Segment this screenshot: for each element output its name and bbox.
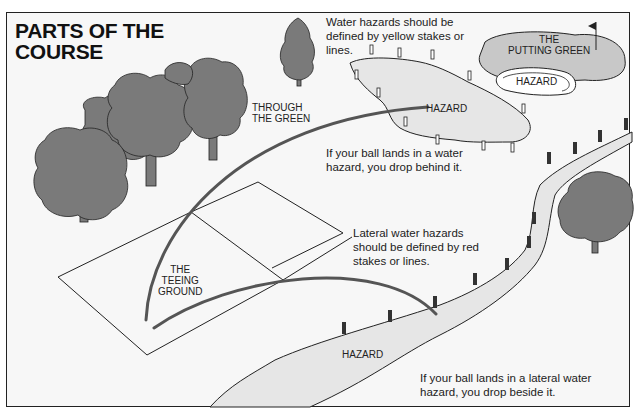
label-line: PUTTING GREEN	[508, 45, 590, 56]
note-line: If your ball lands in a lateral water	[420, 371, 591, 385]
note-line: hazard, you drop behind it.	[326, 160, 463, 174]
note-line: stakes or lines.	[353, 254, 479, 268]
page-title: PARTS OF THE COURSE	[15, 20, 164, 62]
title-line-2: COURSE	[15, 41, 164, 62]
label-putting-green: THE PUTTING GREEN	[508, 34, 590, 56]
label-bunker-hazard: HAZARD	[516, 76, 557, 87]
label-line: GROUND	[158, 286, 202, 297]
label-water-hazard: HAZARD	[426, 103, 467, 114]
note-line: lines.	[326, 43, 464, 57]
label-line: THROUGH	[252, 102, 310, 113]
title-line-1: PARTS OF THE	[15, 20, 164, 41]
note-lateral-hazard-definition: Lateral water hazards should be defined …	[353, 226, 479, 268]
note-water-hazard-definition: Water hazards should be defined by yello…	[326, 15, 464, 57]
tree-cluster-icon	[34, 58, 247, 222]
note-lateral-hazard-rule: If your ball lands in a lateral water ha…	[420, 371, 591, 399]
label-line: THE	[158, 264, 202, 275]
note-water-hazard-rule: If your ball lands in a water hazard, yo…	[326, 146, 463, 174]
tree-right-icon	[558, 172, 633, 253]
note-line: hazard, you drop beside it.	[420, 385, 591, 399]
note-line: Water hazards should be	[326, 15, 464, 29]
label-line: THE GREEN	[252, 113, 310, 124]
note-line: defined by yellow stakes or	[326, 29, 464, 43]
conifer-tree-icon	[280, 18, 314, 86]
label-line: TEEING	[158, 275, 202, 286]
note-line: Lateral water hazards	[353, 226, 479, 240]
label-lateral-hazard: HAZARD	[342, 349, 383, 360]
label-teeing-ground: THE TEEING GROUND	[158, 264, 202, 297]
label-line: THE	[508, 34, 590, 45]
note-line: should be defined by red	[353, 240, 479, 254]
note-line: If your ball lands in a water	[326, 146, 463, 160]
label-through-the-green: THROUGH THE GREEN	[252, 102, 310, 124]
